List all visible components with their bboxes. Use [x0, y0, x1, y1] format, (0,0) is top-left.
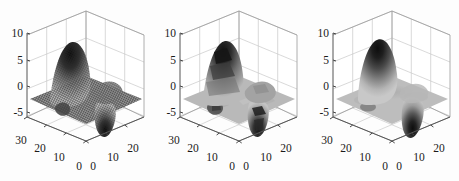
z-tick-label-0: 0: [17, 80, 23, 92]
y-tick-label-10: 10: [53, 151, 65, 163]
mesh-plot-svg: 10 5 0 -5 30 20 10 0 0: [0, 0, 153, 181]
z-tick-label-5: 5: [323, 54, 329, 66]
plot-panel-interp-surface: 10 5 0 -5 30 20 10 0 0 10 20: [306, 0, 459, 181]
x-tick-label-0: 0: [90, 160, 96, 172]
y-tick-label-0: 0: [76, 160, 82, 172]
y-tick-label-10: 10: [206, 151, 218, 163]
y-tick-label-20: 20: [34, 142, 46, 154]
z-tick-label-10: 10: [318, 27, 330, 39]
z-tick-label-neg5: -5: [13, 106, 23, 118]
x-tick-label-0: 0: [243, 160, 249, 172]
plot-panel-mesh: 10 5 0 -5 30 20 10 0 0: [0, 0, 153, 181]
z-tick-label-5: 5: [170, 54, 176, 66]
y-tick-label-30: 30: [321, 134, 333, 146]
z-tick-label-10: 10: [12, 27, 24, 39]
z-tick-label-0: 0: [170, 80, 176, 92]
x-tick-label-0: 0: [396, 160, 402, 172]
x-tick-label-20: 20: [433, 142, 445, 154]
y-tick-label-30: 30: [15, 134, 27, 146]
x-tick-label-10: 10: [107, 151, 119, 163]
y-tick-label-20: 20: [340, 142, 352, 154]
z-tick-label-0: 0: [323, 80, 329, 92]
plot-panel-flat-surface: 10 5 0 -5 30 20 10 0 0 10 20: [153, 0, 306, 181]
z-tick-label-10: 10: [165, 27, 177, 39]
y-tick-label-10: 10: [359, 151, 371, 163]
y-tick-label-20: 20: [187, 142, 199, 154]
z-tick-label-neg5: -5: [166, 106, 176, 118]
x-tick-label-10: 10: [413, 151, 425, 163]
z-tick-label-5: 5: [17, 54, 23, 66]
x-tick-label-20: 20: [280, 142, 292, 154]
y-tick-label-30: 30: [168, 134, 180, 146]
y-tick-label-0: 0: [229, 160, 235, 172]
interp-surface-plot-svg: 10 5 0 -5 30 20 10 0 0 10 20: [306, 0, 459, 181]
x-tick-label-10: 10: [260, 151, 272, 163]
y-tick-label-0: 0: [382, 160, 388, 172]
flat-surface-plot-svg: 10 5 0 -5 30 20 10 0 0 10 20: [153, 0, 306, 181]
x-tick-label-20: 20: [127, 142, 139, 154]
figure-container: 10 5 0 -5 30 20 10 0 0: [0, 0, 459, 181]
z-tick-label-neg5: -5: [319, 106, 329, 118]
